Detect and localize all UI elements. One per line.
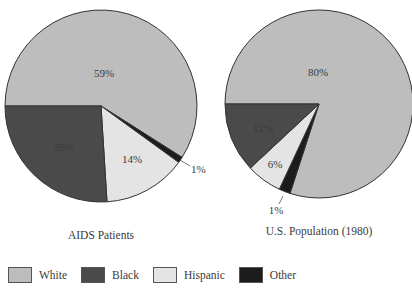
label-right-other: 1%: [269, 204, 284, 216]
label-left-white: 59%: [94, 67, 114, 79]
pie-charts: 59% 26% 14% 1% AIDS Patients 80% 12% 6% …: [0, 0, 412, 260]
legend-item-other: Other: [239, 267, 296, 283]
pie-aids-patients: [5, 10, 197, 202]
legend-label-white: White: [39, 269, 67, 281]
legend-label-other: Other: [270, 269, 296, 281]
legend: White Black Hispanic Other: [8, 267, 310, 283]
label-left-hispanic: 14%: [122, 153, 142, 165]
leader-line-left-other: [180, 160, 190, 166]
label-right-hispanic: 6%: [268, 158, 283, 170]
legend-item-white: White: [8, 267, 67, 283]
label-left-black: 26%: [54, 141, 74, 153]
label-right-white: 80%: [308, 66, 328, 78]
label-right-black: 12%: [253, 122, 273, 134]
legend-item-hispanic: Hispanic: [153, 267, 225, 283]
pie-us-population-1980: [225, 10, 412, 198]
caption-us-population: U.S. Population (1980): [266, 225, 373, 238]
legend-label-black: Black: [112, 269, 139, 281]
legend-swatch-other: [239, 267, 263, 283]
leader-line-right-other: [279, 196, 283, 204]
label-left-other: 1%: [191, 163, 206, 175]
legend-label-hispanic: Hispanic: [184, 269, 225, 281]
legend-swatch-hispanic: [153, 267, 177, 283]
legend-item-black: Black: [81, 267, 139, 283]
legend-swatch-black: [81, 267, 105, 283]
caption-aids-patients: AIDS Patients: [68, 229, 135, 241]
slice-black: [5, 106, 107, 202]
legend-swatch-white: [8, 267, 32, 283]
